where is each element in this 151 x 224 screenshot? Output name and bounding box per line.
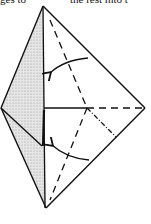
- lower-fold-arrow: [52, 145, 89, 160]
- edge-right-bottom: [46, 108, 145, 208]
- mountain-fold: [87, 108, 116, 137]
- edge-top-right: [43, 6, 145, 108]
- valley-fold-upper: [50, 20, 87, 108]
- flap-thick-edge: [43, 110, 44, 146]
- fold-diagram: [0, 0, 151, 224]
